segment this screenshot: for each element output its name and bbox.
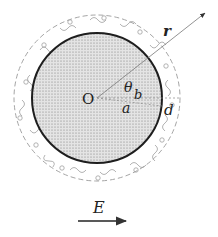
outer-radius-label: b	[134, 87, 142, 102]
inner-radius-label: a	[122, 100, 130, 116]
center-label: O	[82, 90, 94, 108]
field-label: E	[92, 198, 105, 217]
angle-label: θ	[124, 79, 133, 95]
particle-diagram: O r θ b a d E	[0, 0, 218, 237]
radius-label: r	[163, 22, 172, 40]
layer-thickness-label: d	[164, 101, 174, 119]
